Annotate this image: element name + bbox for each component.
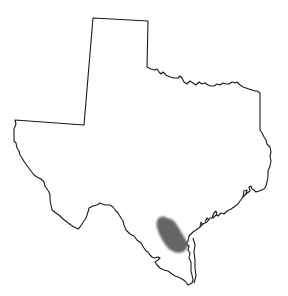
texas-state-outline bbox=[14, 18, 271, 285]
texas-map bbox=[0, 0, 288, 296]
padre-island-detail bbox=[193, 238, 196, 283]
species-range-area bbox=[157, 217, 188, 253]
